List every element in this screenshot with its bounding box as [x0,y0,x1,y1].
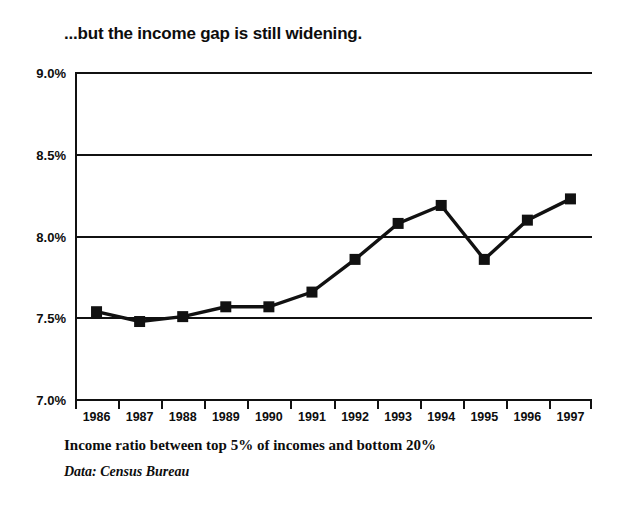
data-point-marker [306,287,317,298]
data-point-marker [134,316,145,327]
x-tick-label: 1993 [384,410,412,424]
axis-caption: Income ratio between top 5% of incomes a… [64,437,436,454]
x-tick [463,400,465,409]
plot-area [75,73,592,400]
data-point-marker [565,193,576,204]
y-tick-label: 9.0% [36,66,66,81]
x-tick [247,400,249,409]
x-axis-ticks [75,400,592,409]
data-point-marker [177,311,188,322]
x-tick-label: 1992 [341,410,369,424]
chart-figure: ...but the income gap is still widening.… [0,0,617,508]
x-tick-label: 1989 [212,410,240,424]
x-tick-label: 1987 [126,410,154,424]
x-tick-label: 1996 [513,410,541,424]
x-tick-label: 1990 [255,410,283,424]
x-tick-label: 1991 [298,410,326,424]
data-point-marker [393,218,404,229]
data-point-marker [263,301,274,312]
y-tick-label: 8.0% [36,229,66,244]
line-series [75,73,592,400]
x-tick [161,400,163,409]
x-tick [377,400,379,409]
x-tick [290,400,292,409]
x-tick [420,400,422,409]
data-point-marker [220,301,231,312]
x-tick [590,400,592,409]
data-point-marker [479,254,490,265]
x-tick [334,400,336,409]
chart-title: ...but the income gap is still widening. [64,24,362,44]
x-tick-label: 1994 [427,410,455,424]
x-tick [549,400,551,409]
x-tick [118,400,120,409]
y-tick-label: 8.5% [36,147,66,162]
x-tick-label: 1995 [470,410,498,424]
x-axis-labels: 1986198719881989199019911992199319941995… [75,410,592,430]
y-axis-labels: 7.0%7.5%8.0%8.5%9.0% [8,73,66,400]
series-markers [91,193,576,327]
x-tick-label: 1986 [83,410,111,424]
data-point-marker [436,200,447,211]
y-tick-label: 7.5% [36,311,66,326]
x-tick [204,400,206,409]
series-line [97,199,571,322]
data-point-marker [522,215,533,226]
data-point-marker [91,306,102,317]
x-tick-label: 1997 [557,410,585,424]
source-note: Data: Census Bureau [64,464,189,480]
data-point-marker [350,254,361,265]
x-tick [506,400,508,409]
y-tick-label: 7.0% [36,393,66,408]
x-tick-label: 1988 [169,410,197,424]
x-tick [75,400,77,409]
